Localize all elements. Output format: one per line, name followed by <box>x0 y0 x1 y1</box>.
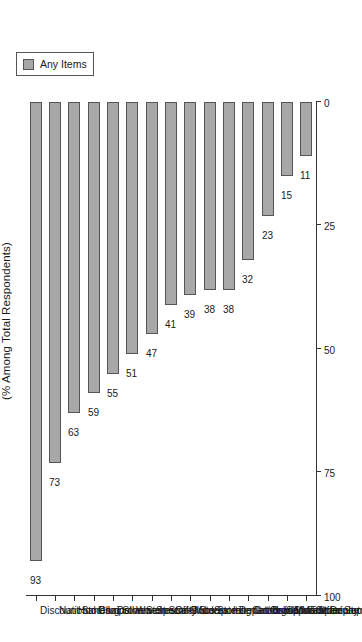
bar-value-label: 11 <box>300 170 310 181</box>
value-axis-title: (% Among Total Respondents) <box>0 0 12 642</box>
value-axis-tick-label: 75 <box>324 469 335 480</box>
value-axis-tick <box>316 595 321 596</box>
value-axis-tick <box>316 472 321 473</box>
bar-slot: 51 <box>126 102 138 596</box>
bar-slot: 38 <box>223 102 235 596</box>
bar <box>49 102 61 463</box>
bar-slot: 47 <box>146 102 158 596</box>
bar-value-label: 15 <box>281 190 292 201</box>
category-axis-tick <box>268 596 269 601</box>
bar-slot: 63 <box>68 102 80 596</box>
category-axis-tick <box>36 596 37 601</box>
category-axis-tick <box>74 596 75 601</box>
bar-slot: 55 <box>107 102 119 596</box>
bar <box>126 102 138 354</box>
value-axis-tick-label: 100 <box>324 592 341 603</box>
bar <box>107 102 119 374</box>
category-axis-tick <box>55 596 56 601</box>
category-label: Tractor Supply/Farming Equipment Stores <box>310 605 362 616</box>
bar-value-label: 32 <box>242 274 253 285</box>
bar <box>68 102 80 413</box>
legend-label-any-items: Any Items <box>40 58 87 70</box>
value-axis-tick <box>316 348 321 349</box>
bar <box>300 102 312 156</box>
category-axis-tick <box>152 596 153 601</box>
category-axis-tick <box>210 596 211 601</box>
bar-value-label: 41 <box>165 319 176 330</box>
bar-slot: 73 <box>49 102 61 596</box>
bar-value-label: 39 <box>184 309 195 320</box>
category-axis-tick <box>113 596 114 601</box>
bar-value-label: 55 <box>107 388 118 399</box>
chart-legend: Any Items <box>16 52 94 76</box>
value-axis-tick-label: 0 <box>324 98 330 109</box>
bar <box>281 102 293 176</box>
bar-slot: 38 <box>204 102 216 596</box>
bar <box>88 102 100 393</box>
bar-slot: 32 <box>242 102 254 596</box>
rotated-figure-wrapper: (% Among Total Respondents) 937363595551… <box>0 0 362 642</box>
bar <box>165 102 177 305</box>
category-axis-tick <box>248 596 249 601</box>
bar-value-label: 73 <box>49 477 60 488</box>
bar-value-label: 23 <box>262 230 273 241</box>
bar-chart-figure: (% Among Total Respondents) 937363595551… <box>0 0 362 642</box>
value-axis-tick <box>316 101 321 102</box>
category-axis-tick <box>229 596 230 601</box>
bar-slot: 93 <box>30 102 42 596</box>
value-axis-tick-label: 50 <box>324 345 335 356</box>
plot-area: 937363595551474139383832231511 025507510… <box>26 102 316 596</box>
value-axis-tick <box>316 225 321 226</box>
bar-value-label: 63 <box>68 427 79 438</box>
bar-value-label: 93 <box>30 575 41 586</box>
bar-slot: 39 <box>184 102 196 596</box>
bar-value-label: 47 <box>146 348 157 359</box>
bar <box>223 102 235 290</box>
bar-value-label: 38 <box>204 304 215 315</box>
category-axis-tick <box>287 596 288 601</box>
value-axis-tick-label: 25 <box>324 222 335 233</box>
category-axis-tick <box>190 596 191 601</box>
bar-value-label: 59 <box>88 407 99 418</box>
bar <box>146 102 158 334</box>
bar-value-label: 38 <box>223 304 234 315</box>
bar <box>204 102 216 290</box>
bar-slot: 59 <box>88 102 100 596</box>
bar-value-label: 51 <box>126 368 137 379</box>
bar-slot: 15 <box>281 102 293 596</box>
bar <box>30 102 42 561</box>
category-axis-tick <box>306 596 307 601</box>
category-axis-tick <box>171 596 172 601</box>
bar <box>184 102 196 295</box>
bar <box>242 102 254 260</box>
bar-slot: 41 <box>165 102 177 596</box>
bar-slot: 11 <box>300 102 312 596</box>
category-axis-tick <box>94 596 95 601</box>
bar-slot: 23 <box>262 102 274 596</box>
category-axis-tick <box>132 596 133 601</box>
bar <box>262 102 274 216</box>
value-axis-line <box>316 102 317 596</box>
legend-swatch-any-items <box>23 59 34 70</box>
